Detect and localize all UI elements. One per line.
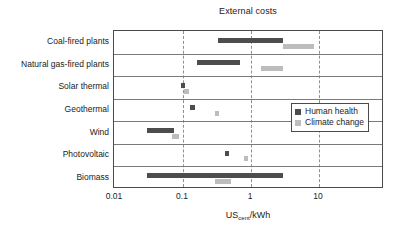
bar-climate-change-row-5 [244,156,247,161]
legend-swatch-icon [295,120,301,126]
bar-human-health-row-0 [218,38,283,43]
row-separator [114,99,382,100]
category-label-wind: Wind [1,127,109,137]
x-axis-label-suffix: /kWh [250,210,271,220]
bar-human-health-row-3 [190,105,195,110]
bar-human-health-row-2 [181,83,185,88]
x-tick-label-0.01: 0.01 [106,191,123,201]
x-axis-label-prefix: US [226,210,239,220]
row-separator [114,54,382,55]
category-label-solar-thermal: Solar thermal [1,81,109,91]
bar-human-health-row-5 [225,151,229,156]
bar-climate-change-row-0 [283,44,314,49]
bar-climate-change-row-3 [215,111,219,116]
x-tick-label-10: 10 [313,191,322,201]
legend-item-label: Climate change [305,117,364,128]
chart-legend: Human healthClimate change [291,103,369,132]
row-separator [114,76,382,77]
category-label-natural-gas-fired-plants: Natural gas-fired plants [1,59,109,69]
bar-climate-change-row-1 [261,66,284,71]
category-label-photovoltaic: Photovoltaic [1,149,109,159]
x-axis-tick-labels: 0.010.1110 [0,191,396,205]
legend-item-label: Human health [305,106,358,117]
x-tick-label-0.1: 0.1 [176,191,188,201]
bar-human-health-row-4 [147,128,174,133]
legend-swatch-icon [295,109,301,115]
category-axis-labels: Coal-fired plantsNatural gas-fired plant… [0,30,109,188]
category-label-geothermal: Geothermal [1,104,109,114]
bar-human-health-row-6 [147,173,283,178]
x-axis-label-subscript: cent [238,215,249,221]
x-tick-label-1: 1 [248,191,253,201]
bar-human-health-row-1 [197,60,241,65]
x-axis-label: UScent/kWh [113,210,383,220]
row-separator [114,166,382,167]
row-separator [114,144,382,145]
chart-title: External costs [113,6,383,16]
legend-item-human-health[interactable]: Human health [295,106,364,117]
category-label-biomass: Biomass [1,172,109,182]
legend-item-climate-change[interactable]: Climate change [295,117,364,128]
external-costs-chart-figure: External costs Coal-fired plantsNatural … [0,0,396,233]
bar-climate-change-row-6 [215,179,230,184]
bar-climate-change-row-2 [184,89,188,94]
bar-climate-change-row-4 [172,134,178,139]
category-label-coal-fired-plants: Coal-fired plants [1,36,109,46]
